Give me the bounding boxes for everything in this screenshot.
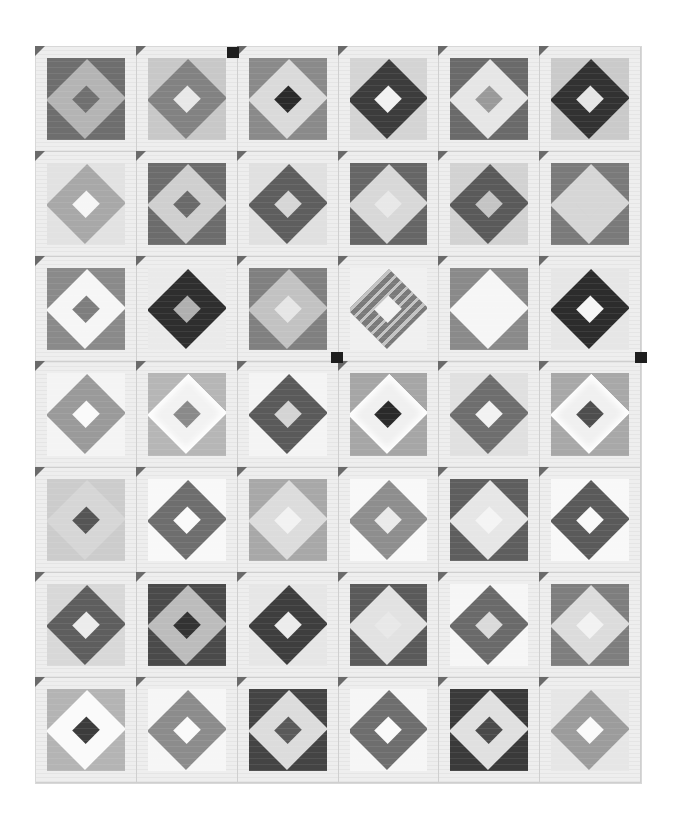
square-in-square-block: [249, 479, 327, 561]
square-in-square-block: [148, 584, 226, 666]
quilt-block: [540, 362, 641, 467]
square-in-square-block: [249, 373, 327, 455]
square-in-square-block: [47, 584, 125, 666]
sashing-corner-triangle: [539, 46, 549, 56]
quilt-block: [137, 47, 238, 152]
sashing-corner-triangle: [438, 46, 448, 56]
square-in-square-block: [551, 268, 629, 350]
quilt-block: [36, 573, 137, 678]
sashing-corner-triangle: [237, 256, 247, 266]
quilt-block: [36, 257, 137, 362]
quilt-block: [439, 362, 540, 467]
sashing-corner-triangle: [35, 46, 45, 56]
quilt-block: [238, 257, 339, 362]
sashing-corner-triangle: [237, 467, 247, 477]
square-in-square-block: [249, 58, 327, 140]
sashing-corner-triangle: [539, 256, 549, 266]
square-in-square-block: [450, 479, 528, 561]
square-in-square-block: [350, 584, 428, 666]
sashing-corner-triangle: [35, 572, 45, 582]
quilt-block: [137, 678, 238, 783]
sashing-corner-triangle: [438, 151, 448, 161]
quilt-photo: [36, 47, 641, 783]
square-in-square-block: [450, 584, 528, 666]
square-in-square-block: [47, 58, 125, 140]
square-in-square-block: [350, 163, 428, 245]
quilt-block: [339, 678, 440, 783]
square-in-square-block: [551, 584, 629, 666]
quilt-block: [540, 152, 641, 257]
dark-sashing-post: [331, 352, 343, 363]
square-in-square-block: [47, 373, 125, 455]
quilt-block: [137, 468, 238, 573]
sashing-corner-triangle: [438, 361, 448, 371]
square-in-square-block: [551, 479, 629, 561]
sashing-corner-triangle: [438, 677, 448, 687]
square-in-square-block: [350, 689, 428, 771]
square-in-square-block: [450, 689, 528, 771]
quilt-block: [439, 468, 540, 573]
square-in-square-block: [450, 58, 528, 140]
quilt-block: [439, 257, 540, 362]
square-in-square-block: [551, 58, 629, 140]
quilt-block: [439, 47, 540, 152]
square-in-square-block: [148, 373, 226, 455]
square-in-square-block: [551, 373, 629, 455]
square-in-square-block: [350, 268, 428, 350]
square-in-square-block: [450, 373, 528, 455]
square-in-square-block: [450, 163, 528, 245]
quilt-block: [137, 573, 238, 678]
sashing-corner-triangle: [338, 256, 348, 266]
sashing-corner-triangle: [35, 256, 45, 266]
sashing-corner-triangle: [35, 467, 45, 477]
quilt-block: [439, 573, 540, 678]
sashing-corner-triangle: [539, 361, 549, 371]
square-in-square-block: [249, 689, 327, 771]
quilt-block: [36, 47, 137, 152]
quilt-block: [36, 152, 137, 257]
square-in-square-block: [249, 268, 327, 350]
square-in-square-block: [47, 163, 125, 245]
sashing-corner-triangle: [237, 572, 247, 582]
sashing-corner-triangle: [438, 256, 448, 266]
quilt-block: [238, 362, 339, 467]
square-in-square-block: [551, 689, 629, 771]
quilt-block: [238, 47, 339, 152]
dark-sashing-post: [227, 47, 239, 58]
quilt-block: [238, 573, 339, 678]
quilt-block: [36, 362, 137, 467]
sashing-corner-triangle: [338, 677, 348, 687]
square-in-square-block: [249, 163, 327, 245]
square-in-square-block: [148, 689, 226, 771]
sashing-corner-triangle: [338, 572, 348, 582]
square-in-square-block: [148, 268, 226, 350]
sashing-corner-triangle: [237, 677, 247, 687]
dark-sashing-post: [635, 352, 647, 363]
square-in-square-block: [47, 689, 125, 771]
sashing-corner-triangle: [338, 467, 348, 477]
sashing-corner-triangle: [136, 572, 146, 582]
quilt-block: [540, 468, 641, 573]
sashing-corner-triangle: [136, 256, 146, 266]
square-in-square-block: [350, 373, 428, 455]
quilt-block: [439, 678, 540, 783]
quilt-block: [339, 152, 440, 257]
sashing-corner-triangle: [136, 46, 146, 56]
quilt-block: [339, 47, 440, 152]
quilt-block: [540, 573, 641, 678]
sashing-corner-triangle: [237, 151, 247, 161]
quilt-block: [339, 573, 440, 678]
quilt-block: [439, 152, 540, 257]
quilt-block: [238, 678, 339, 783]
quilt-block: [137, 257, 238, 362]
sashing-corner-triangle: [136, 677, 146, 687]
square-in-square-block: [148, 479, 226, 561]
quilt-block: [540, 678, 641, 783]
quilt-block: [137, 152, 238, 257]
sashing-corner-triangle: [539, 151, 549, 161]
sashing-corner-triangle: [136, 151, 146, 161]
sashing-corner-triangle: [338, 46, 348, 56]
quilt-block: [238, 468, 339, 573]
sashing-corner-triangle: [338, 151, 348, 161]
sashing-corner-triangle: [539, 572, 549, 582]
